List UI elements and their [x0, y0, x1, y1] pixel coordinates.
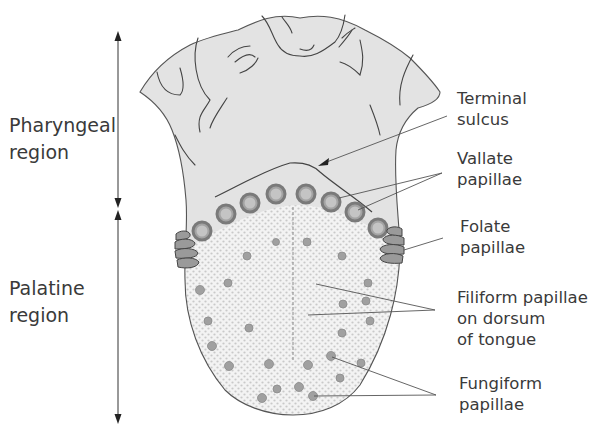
tongue-body: [0, 0, 592, 427]
palatine-region-arrow: [115, 210, 122, 424]
filiform-papillae-label: Filiform papillae on dorsum of tongue: [457, 287, 588, 350]
fungiform-papillae-label: Fungiform papillae: [459, 373, 542, 415]
vallate-papillae-label: Vallate papillae: [457, 148, 522, 190]
pharyngeal-region-label: Pharyngeal region: [9, 112, 116, 166]
palatine-region-label: Palatine region: [9, 275, 85, 329]
tongue-diagram: Pharyngeal region Palatine region Termin…: [0, 0, 592, 427]
terminal-sulcus-label: Terminal sulcus: [457, 88, 527, 130]
folate-papillae-label: Folate papillae: [460, 216, 525, 258]
